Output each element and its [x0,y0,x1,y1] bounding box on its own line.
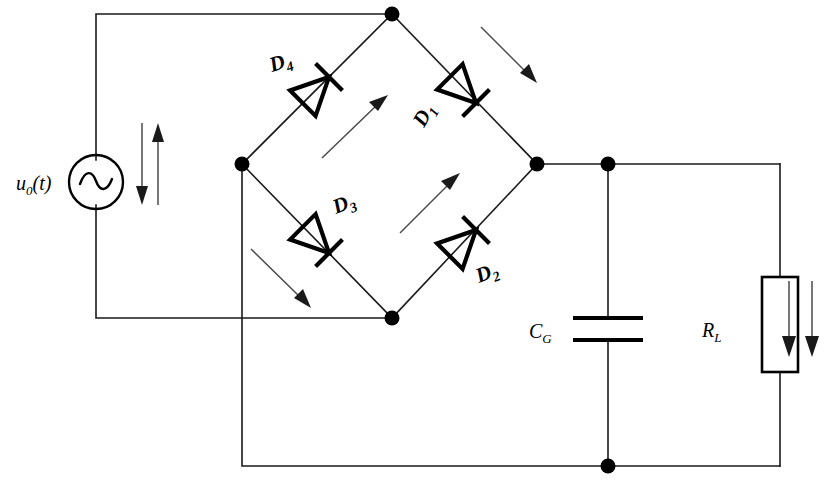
source-arrow-down [136,123,148,205]
bridge-top-node-dot [385,7,400,22]
wire-source-to-bottom-node [96,205,392,318]
wire-bridge-arm-top-right [392,14,537,164]
wire-left-node-to-bottom-rail [242,164,608,466]
resistor-label-main: R [701,319,714,341]
circuit-diagram-canvas: u0(t) D4 D1 D3 D2 CG RL [0,0,832,483]
resistor-label: RL [701,319,721,345]
bridge-arrow-lower-right [400,173,460,233]
wire-bridge-arm-bottom-left [242,164,392,318]
diode-D3-label: D3 [328,188,360,222]
bridge-arrow-upper-left [322,95,388,158]
labels-layer: u0(t) D4 D1 D3 D2 CG RL [16,47,721,346]
diode-D1-triangle [437,64,489,116]
load-arrow-right [805,281,819,357]
wire-bridge-arm-bottom-right [392,164,537,318]
bridge-bottom-node-dot [385,311,400,326]
ac-voltage-source [69,155,123,209]
bridge-arrow-upper-right [481,27,537,83]
wire-bridge-arm-top-left [242,14,392,164]
capacitor-bottom-node-dot [601,459,616,474]
diode-D2-label: D2 [471,257,503,291]
bridge-arrow-lower-left [251,249,311,308]
wiring-layer [96,14,780,466]
source-label-arg: (t) [33,172,52,195]
resistor-RL [762,277,798,372]
wire-source-to-top-node [96,14,392,160]
source-label: u0(t) [16,172,52,198]
capacitor-CG [573,318,643,340]
capacitor-top-node-dot [601,157,616,172]
diode-D1-label: D1 [407,99,442,133]
bridge-rectifier-schematic: u0(t) D4 D1 D3 D2 CG RL [0,0,832,483]
bridge-right-node-dot [530,157,545,172]
current-arrows-layer [136,27,819,357]
resistor-label-sub: L [713,330,721,345]
sine-wave-icon [80,173,112,189]
diode-D4-label: D4 [265,47,295,80]
capacitor-label-main: C [529,320,543,342]
source-arrow-up [152,123,164,205]
source-label-main: u [16,172,26,194]
capacitor-label-sub: G [542,331,552,346]
diode-D1 [436,63,489,116]
bridge-left-node-dot [235,157,250,172]
resistor-body [762,277,798,372]
capacitor-label: CG [529,320,552,346]
diode-D1-bar [463,90,490,117]
